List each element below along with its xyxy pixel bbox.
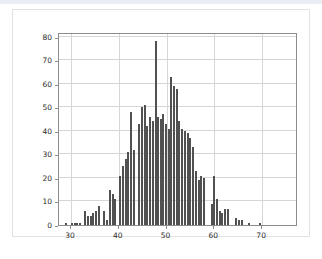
- y-tick-label: 20: [42, 175, 52, 183]
- histogram-figure-card: 01020304050607080 3040506070: [12, 9, 310, 237]
- x-tick-mark: [166, 226, 167, 229]
- histogram-bar: [133, 150, 135, 225]
- histogram-bar: [192, 147, 194, 225]
- x-tick-label: 40: [113, 232, 123, 240]
- histogram-bar: [122, 166, 124, 225]
- histogram-bar: [238, 220, 240, 225]
- histogram-bar: [187, 133, 189, 225]
- histogram-bar: [130, 112, 132, 225]
- y-tick-label: 60: [42, 81, 52, 89]
- gridline-vertical: [262, 34, 263, 225]
- histogram-bar: [165, 124, 167, 225]
- histogram-bar: [200, 176, 202, 225]
- x-tick-label: 50: [161, 232, 171, 240]
- x-tick-label: 30: [65, 232, 75, 240]
- y-tick-label: 70: [42, 57, 52, 65]
- gridline-horizontal: [59, 36, 296, 37]
- histogram-bar: [106, 220, 108, 225]
- histogram-bar: [71, 223, 73, 225]
- histogram-bar: [98, 206, 100, 225]
- x-tick-mark: [213, 226, 214, 229]
- histogram-bar: [259, 223, 261, 225]
- histogram-bar: [195, 171, 197, 225]
- y-tick-label: 50: [42, 105, 52, 113]
- histogram-bar: [235, 218, 237, 225]
- y-tick-label: 10: [42, 199, 52, 207]
- histogram-bar: [84, 211, 86, 225]
- plot-area: [58, 33, 297, 226]
- histogram-bar: [76, 223, 78, 225]
- x-tick-mark: [70, 226, 71, 229]
- y-tick-label: 40: [42, 128, 52, 136]
- gridline-horizontal: [59, 83, 296, 84]
- histogram-bar: [184, 131, 186, 225]
- histogram-bar: [157, 117, 159, 225]
- y-tick-mark: [55, 226, 58, 227]
- x-tick-mark: [261, 226, 262, 229]
- histogram-bar: [152, 121, 154, 225]
- y-tick-label: 30: [42, 152, 52, 160]
- histogram-bar: [114, 199, 116, 225]
- y-tick-label: 80: [42, 34, 52, 42]
- histogram-bar: [227, 209, 229, 225]
- histogram-bar: [92, 213, 94, 225]
- histogram-bar: [170, 77, 172, 225]
- x-tick-label: 70: [256, 232, 266, 240]
- histogram-bar: [203, 178, 205, 225]
- x-tick-label: 60: [209, 232, 219, 240]
- y-tick-label: 0: [47, 222, 52, 230]
- histogram-bar: [141, 107, 143, 225]
- histogram-bar: [119, 176, 121, 225]
- histogram-bar: [241, 220, 243, 225]
- histogram-bar: [213, 176, 215, 225]
- histogram-bar: [87, 216, 89, 225]
- histogram-bar: [144, 105, 146, 225]
- x-tick-mark: [118, 226, 119, 229]
- gridline-vertical: [71, 34, 72, 225]
- histogram-bar: [178, 121, 180, 225]
- histogram-bar: [216, 199, 218, 225]
- histogram-bar: [127, 152, 129, 225]
- histogram-bar: [162, 114, 164, 225]
- histogram-bar: [149, 117, 151, 225]
- histogram-bar: [173, 86, 175, 225]
- top-background-strip: [0, 0, 322, 4]
- gridline-horizontal: [59, 59, 296, 60]
- histogram-bar: [79, 223, 81, 225]
- plot-wrapper: 01020304050607080 3040506070: [13, 10, 311, 238]
- histogram-bar: [221, 213, 223, 225]
- histogram-bar: [65, 223, 67, 225]
- histogram-bar: [109, 190, 111, 225]
- histogram-bar: [248, 223, 250, 225]
